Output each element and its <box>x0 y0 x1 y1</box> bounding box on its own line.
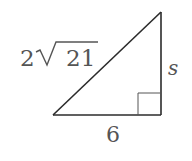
right-angle-marker-icon <box>138 93 161 115</box>
vertical-side-label: s <box>168 56 178 80</box>
hypotenuse-coefficient: 2 <box>20 45 35 71</box>
base-label: 6 <box>106 122 120 147</box>
hypotenuse-label: 2 21 <box>20 42 98 71</box>
hypotenuse-radicand: 21 <box>66 45 95 71</box>
right-triangle-diagram: 2 21 s 6 <box>0 0 192 161</box>
